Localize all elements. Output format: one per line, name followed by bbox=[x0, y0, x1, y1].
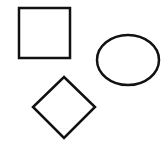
shapes-drawing bbox=[0, 0, 161, 150]
diagram-canvas bbox=[0, 0, 161, 150]
square-shape bbox=[19, 8, 70, 58]
diamond-shape bbox=[33, 77, 95, 138]
ellipse-shape bbox=[97, 35, 159, 85]
